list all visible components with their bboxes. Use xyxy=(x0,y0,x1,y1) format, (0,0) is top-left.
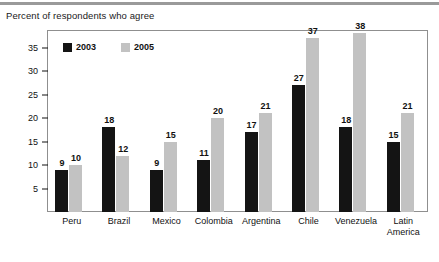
y-axis: 3530252015105 xyxy=(0,0,47,262)
bar-2003[interactable] xyxy=(292,85,305,212)
bar-2005[interactable] xyxy=(69,165,82,212)
y-axis-tick-label: 20 xyxy=(12,113,38,123)
y-axis-tick-label: 10 xyxy=(12,160,38,170)
legend-swatch-2003 xyxy=(63,43,72,52)
bar-2005[interactable] xyxy=(211,118,224,212)
bars-layer: 910181291511201721273718381521 xyxy=(48,31,427,212)
y-axis-tick-label: 25 xyxy=(12,90,38,100)
top-divider-rule xyxy=(0,2,439,5)
bar-2005[interactable] xyxy=(401,113,414,212)
bar-value-label: 20 xyxy=(208,106,228,116)
bar-2003[interactable] xyxy=(387,142,400,213)
category-axis-labels: PeruBrazilMexicoColombiaArgentinaChileVe… xyxy=(48,216,427,258)
bar-group: 2737 xyxy=(285,31,332,212)
bar-group: 1521 xyxy=(380,31,427,212)
legend-label-2005: 2005 xyxy=(134,42,154,52)
bar-2003[interactable] xyxy=(245,132,258,212)
category-label-latin: LatinAmerica xyxy=(375,216,431,238)
bar-value-label: 38 xyxy=(350,21,370,31)
category-label-line: Latin xyxy=(375,216,431,227)
category-label-line: America xyxy=(375,227,431,238)
bar-2005[interactable] xyxy=(306,38,319,212)
y-axis-tick-label: 30 xyxy=(12,66,38,76)
bar-value-label: 12 xyxy=(113,144,133,154)
bar-value-label: 15 xyxy=(161,130,181,140)
bar-2005[interactable] xyxy=(164,142,177,213)
bar-group: 910 xyxy=(48,31,95,212)
bar-value-label: 18 xyxy=(99,115,119,125)
bar-group: 1838 xyxy=(332,31,379,212)
legend-swatch-2005 xyxy=(121,43,130,52)
bar-2003[interactable] xyxy=(55,170,68,212)
bar-2005[interactable] xyxy=(116,156,129,212)
bar-2003[interactable] xyxy=(197,160,210,212)
y-axis-tick-label: 15 xyxy=(12,137,38,147)
bar-group: 1721 xyxy=(238,31,285,212)
legend-label-2003: 2003 xyxy=(76,42,96,52)
bar-group: 1120 xyxy=(190,31,237,212)
bar-value-label: 21 xyxy=(256,101,276,111)
y-axis-tick-label: 5 xyxy=(12,184,38,194)
bar-group: 915 xyxy=(143,31,190,212)
bar-2003[interactable] xyxy=(339,127,352,212)
bar-value-label: 37 xyxy=(303,26,323,36)
bar-value-label: 21 xyxy=(398,101,418,111)
y-axis-tick-label: 35 xyxy=(12,43,38,53)
bar-value-label: 10 xyxy=(66,153,86,163)
bar-2005[interactable] xyxy=(353,33,366,212)
bar-group: 1812 xyxy=(95,31,142,212)
bar-2005[interactable] xyxy=(259,113,272,212)
bar-2003[interactable] xyxy=(102,127,115,212)
bar-2003[interactable] xyxy=(150,170,163,212)
